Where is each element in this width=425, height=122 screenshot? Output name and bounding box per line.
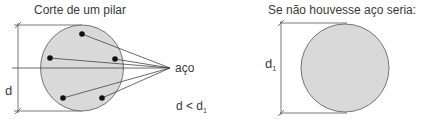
hypothetical-cross-section <box>301 24 389 112</box>
dimension-label-d: d <box>5 83 12 98</box>
diagram-canvas: Corte de um pilar d aço d < d1 <box>0 0 425 122</box>
steel-bar-dot <box>79 31 85 37</box>
steel-bar-dot <box>60 95 66 101</box>
steel-bar-dot <box>112 56 118 62</box>
right-panel: Se não houvesse aço seria: d1 <box>265 3 416 116</box>
comparison-text: d < d1 <box>176 99 207 114</box>
right-title: Se não houvesse aço seria: <box>268 3 416 17</box>
pointer-label-aco: aço <box>175 61 195 75</box>
steel-bar-dot <box>99 95 105 101</box>
dimension-label-d1: d1 <box>265 56 276 72</box>
left-title: Corte de um pilar <box>34 3 126 17</box>
left-panel: Corte de um pilar d aço d < d1 <box>5 3 207 114</box>
steel-bar-dot <box>47 55 53 61</box>
